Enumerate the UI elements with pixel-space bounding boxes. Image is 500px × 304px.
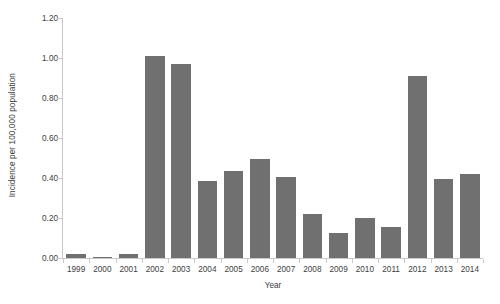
bar bbox=[381, 227, 400, 258]
bar bbox=[460, 174, 479, 258]
bar bbox=[434, 179, 453, 258]
x-axis-tick-label: 2012 bbox=[408, 265, 426, 274]
x-axis-tick-mark bbox=[221, 259, 222, 263]
x-axis-tick-label: 2013 bbox=[435, 265, 453, 274]
x-axis-tick-mark bbox=[168, 259, 169, 263]
bar bbox=[250, 159, 269, 258]
x-axis-tick-mark bbox=[63, 259, 64, 263]
bar bbox=[171, 64, 190, 258]
x-axis-title: Year bbox=[63, 281, 483, 290]
bar bbox=[198, 181, 217, 258]
bar bbox=[119, 254, 138, 258]
y-axis-title-label: Incidence per 100,000 population bbox=[8, 73, 17, 197]
y-axis-tick-mark bbox=[57, 178, 62, 179]
y-axis-tick-mark bbox=[57, 138, 62, 139]
y-axis-title: Incidence per 100,000 population bbox=[0, 0, 24, 270]
x-axis-tick-mark bbox=[194, 259, 195, 263]
bar bbox=[224, 171, 243, 258]
x-axis-tick-mark bbox=[326, 259, 327, 263]
y-axis-tick-label: 1.20 bbox=[24, 14, 58, 23]
x-axis-tick-mark bbox=[116, 259, 117, 263]
x-axis-tick-label: 2007 bbox=[277, 265, 295, 274]
y-axis-tick-label: 0.40 bbox=[24, 174, 58, 183]
x-axis-tick-label: 2014 bbox=[461, 265, 479, 274]
y-axis-tick-label: 0.60 bbox=[24, 134, 58, 143]
x-axis-tick-mark bbox=[352, 259, 353, 263]
x-axis-tick-label: 2001 bbox=[120, 265, 138, 274]
x-axis-tick-mark bbox=[273, 259, 274, 263]
bar bbox=[408, 76, 427, 258]
x-axis-tick-label: 2009 bbox=[330, 265, 348, 274]
y-axis-tick-mark bbox=[57, 58, 62, 59]
x-axis-tick-labels: 1999200020012002200320042005200620072008… bbox=[63, 265, 483, 279]
x-axis-tick-label: 1999 bbox=[67, 265, 85, 274]
x-axis-tick-label: 2010 bbox=[356, 265, 374, 274]
x-axis-tick-label: 2011 bbox=[382, 265, 400, 274]
x-axis-tick-mark bbox=[378, 259, 379, 263]
x-axis-tick-mark bbox=[404, 259, 405, 263]
x-axis-tick-label: 2006 bbox=[251, 265, 269, 274]
bar bbox=[276, 177, 295, 258]
x-axis-tick-label: 2004 bbox=[198, 265, 216, 274]
x-axis-tick-mark bbox=[247, 259, 248, 263]
bar bbox=[355, 218, 374, 258]
bar bbox=[329, 233, 348, 258]
bar bbox=[303, 214, 322, 258]
bar bbox=[145, 56, 164, 258]
x-axis-tick-mark bbox=[431, 259, 432, 263]
x-axis-tick-label: 2003 bbox=[172, 265, 190, 274]
x-axis-tick-label: 2008 bbox=[303, 265, 321, 274]
y-axis-tick-labels: 0.000.200.400.600.801.001.20 bbox=[24, 0, 58, 304]
x-axis-tick-mark bbox=[457, 259, 458, 263]
x-axis-tick-mark bbox=[483, 259, 484, 263]
y-axis-tick-label: 0.20 bbox=[24, 214, 58, 223]
x-axis-tick-mark bbox=[89, 259, 90, 263]
bar bbox=[93, 257, 112, 258]
x-axis-tick-mark bbox=[299, 259, 300, 263]
x-axis-tick-label: 2000 bbox=[93, 265, 111, 274]
x-axis-tick-label: 2005 bbox=[225, 265, 243, 274]
y-axis-tick-label: 0.00 bbox=[24, 254, 58, 263]
bar-chart: Incidence per 100,000 population 0.000.2… bbox=[0, 0, 500, 304]
y-axis-tick-label: 1.00 bbox=[24, 54, 58, 63]
x-axis-tick-label: 2002 bbox=[146, 265, 164, 274]
y-axis-tick-mark bbox=[57, 258, 62, 259]
y-axis-tick-mark bbox=[57, 218, 62, 219]
y-axis-tick-mark bbox=[57, 98, 62, 99]
plot-area bbox=[63, 18, 483, 258]
y-axis-tick-mark bbox=[57, 18, 62, 19]
bar bbox=[66, 254, 85, 258]
x-axis-tick-mark bbox=[142, 259, 143, 263]
y-axis-tick-label: 0.80 bbox=[24, 94, 58, 103]
